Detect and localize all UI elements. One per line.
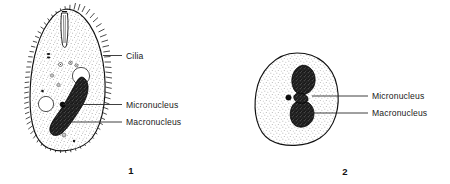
label-macronucleus-1: Macronucleus	[126, 117, 181, 127]
micronucleus-2	[286, 95, 291, 100]
figure-number-2: 2	[342, 166, 347, 177]
oral-groove	[61, 12, 68, 48]
label-micronucleus-1: Micronucleus	[126, 100, 178, 110]
organism-2-group: Micronucleus Macronucleus 2	[250, 48, 427, 177]
ciliate-diagram: Cilia Micronucleus Macronucleus 1	[0, 0, 450, 184]
figure-container: Cilia Micronucleus Macronucleus 1	[0, 0, 450, 184]
organism-1-group: Cilia Micronucleus Macronucleus 1	[24, 3, 181, 176]
label-macronucleus-2: Macronucleus	[372, 108, 427, 118]
figure-number-1: 1	[128, 165, 134, 176]
cytoplasm-1	[25, 5, 115, 160]
label-cilia-1: Cilia	[126, 51, 144, 61]
label-micronucleus-2: Micronucleus	[372, 91, 424, 101]
